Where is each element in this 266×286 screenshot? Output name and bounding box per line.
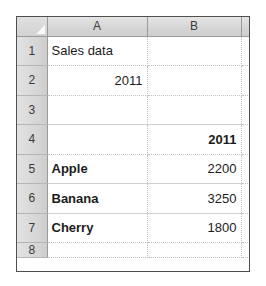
cell-b5[interactable]: 2200	[147, 154, 241, 184]
row-header-1[interactable]: 1	[17, 36, 47, 66]
cell-c1[interactable]	[241, 36, 249, 66]
table-row: 3	[17, 95, 249, 125]
row-header-5[interactable]: 5	[17, 154, 47, 184]
cell-b7[interactable]: 1800	[147, 213, 241, 243]
sheet-table: A B 1 Sales data 2 2011 3	[17, 17, 250, 258]
row-header-7[interactable]: 7	[17, 213, 47, 243]
column-header-row: A B	[17, 17, 249, 36]
cell-c3[interactable]	[241, 95, 249, 125]
table-row: 1 Sales data	[17, 36, 249, 66]
cell-a7[interactable]: Cherry	[47, 213, 147, 243]
cell-c6[interactable]	[241, 184, 249, 214]
select-all-button[interactable]	[17, 17, 47, 36]
select-all-triangle-icon	[36, 25, 45, 34]
cell-a1[interactable]: Sales data	[47, 36, 147, 66]
cell-b8[interactable]	[147, 243, 241, 258]
cell-a2[interactable]: 2011	[47, 66, 147, 96]
table-row: 5 Apple 2200	[17, 154, 249, 184]
table-row: 2 2011	[17, 66, 249, 96]
table-row: 8	[17, 243, 249, 258]
row-header-8[interactable]: 8	[17, 243, 47, 258]
table-row: 7 Cherry 1800	[17, 213, 249, 243]
cell-c7[interactable]	[241, 213, 249, 243]
cell-b3[interactable]	[147, 95, 241, 125]
row-header-2[interactable]: 2	[17, 66, 47, 96]
row-header-4[interactable]: 4	[17, 125, 47, 155]
cell-a8[interactable]	[47, 243, 147, 258]
cell-c4[interactable]	[241, 125, 249, 155]
column-header-a[interactable]: A	[47, 17, 147, 36]
cell-a6[interactable]: Banana	[47, 184, 147, 214]
table-row: 6 Banana 3250	[17, 184, 249, 214]
column-header-c[interactable]	[241, 17, 249, 36]
cell-c8[interactable]	[241, 243, 249, 258]
cell-b2[interactable]	[147, 66, 241, 96]
spreadsheet-grid[interactable]: A B 1 Sales data 2 2011 3	[16, 16, 250, 272]
column-header-b[interactable]: B	[147, 17, 241, 36]
cell-b6[interactable]: 3250	[147, 184, 241, 214]
cell-a3[interactable]	[47, 95, 147, 125]
cell-c2[interactable]	[241, 66, 249, 96]
cell-b4[interactable]: 2011	[147, 125, 241, 155]
row-header-6[interactable]: 6	[17, 184, 47, 214]
cell-b1[interactable]	[147, 36, 241, 66]
cell-a4[interactable]	[47, 125, 147, 155]
cell-c5[interactable]	[241, 154, 249, 184]
cell-a5[interactable]: Apple	[47, 154, 147, 184]
table-row: 4 2011	[17, 125, 249, 155]
row-header-3[interactable]: 3	[17, 95, 47, 125]
